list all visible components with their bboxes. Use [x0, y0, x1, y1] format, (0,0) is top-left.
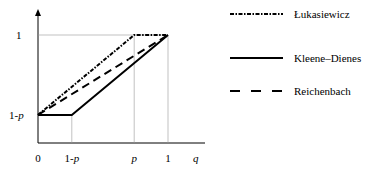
y-tick-label: 1: [16, 29, 22, 41]
series-line-2: [38, 35, 168, 115]
x-tick-label: p: [130, 152, 137, 164]
legend-label: Kleene–Dienes: [294, 52, 361, 64]
legend-label: Reichenbach: [294, 85, 351, 97]
y-tick-label: 1-p: [9, 109, 24, 121]
series-line-0: [38, 35, 168, 115]
plot-area: 01-pp11-p1 q ŁukasiewiczKleene–DienesRei…: [0, 0, 371, 176]
legend-label: Łukasiewicz: [294, 8, 350, 20]
x-tick-label: 0: [35, 152, 41, 164]
x-tick-label: 1-p: [64, 152, 79, 164]
x-tick-label: 1: [165, 152, 171, 164]
x-axis-label: q: [193, 152, 199, 164]
chart: 01-pp11-p1 q ŁukasiewiczKleene–DienesRei…: [0, 0, 371, 176]
y-axis-arrow-icon: [35, 9, 41, 16]
series-line-1: [38, 35, 168, 115]
